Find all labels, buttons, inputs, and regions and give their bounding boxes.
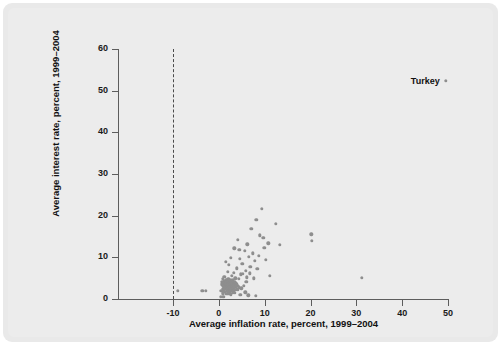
- scatter-point: [235, 266, 238, 269]
- x-axis-title: Average inflation rate, percent, 1999–20…: [118, 318, 449, 329]
- scatter-point: [254, 294, 257, 297]
- x-tick-mark: [265, 300, 266, 306]
- scatter-point: [227, 263, 230, 266]
- scatter-point: [310, 239, 313, 242]
- scatter-point: [248, 271, 251, 274]
- y-tick-mark: [112, 174, 119, 175]
- y-tick-mark: [112, 257, 119, 258]
- y-tick-mark: [112, 299, 119, 300]
- scatter-point: [246, 294, 249, 297]
- scatter-point: [251, 251, 254, 254]
- x-tick-label: 40: [382, 308, 422, 318]
- y-tick-label: 10: [82, 251, 108, 261]
- scatter-point: [255, 218, 258, 221]
- scatter-point: [444, 79, 447, 82]
- scatter-point: [233, 246, 236, 249]
- scatter-point: [241, 272, 244, 275]
- scatter-point: [267, 241, 270, 244]
- scatter-point: [239, 293, 242, 296]
- x-tick-mark: [311, 300, 312, 306]
- zero-inflation-reference-line: [173, 49, 174, 299]
- scatter-point: [310, 233, 313, 236]
- scatter-point: [256, 267, 259, 270]
- x-tick-mark: [402, 300, 403, 306]
- plot-area: Turkey: [173, 49, 448, 299]
- scatter-point: [233, 291, 236, 294]
- scatter-point: [260, 207, 263, 210]
- scatter-point: [238, 257, 241, 260]
- y-tick-mark: [112, 49, 119, 50]
- x-tick-label: 20: [291, 308, 331, 318]
- scatter-point: [176, 289, 179, 292]
- y-tick-label: 60: [82, 43, 108, 53]
- y-tick-label: 40: [82, 126, 108, 136]
- chart-page: Average interest rate, percent, 1999–200…: [0, 0, 501, 345]
- scatter-point: [237, 277, 240, 280]
- scatter-point: [274, 222, 277, 225]
- scatter-point: [247, 255, 250, 258]
- y-tick-label: 50: [82, 85, 108, 95]
- scatter-point: [257, 254, 260, 257]
- scatter-point: [204, 289, 207, 292]
- scatter-point: [229, 256, 232, 259]
- x-tick-mark: [356, 300, 357, 306]
- y-axis-title: Average interest rate, percent, 1999–200…: [50, 29, 61, 219]
- y-tick-mark: [112, 132, 119, 133]
- scatter-point: [241, 262, 244, 265]
- scatter-point: [226, 270, 229, 273]
- scatter-point: [278, 243, 281, 246]
- scatter-point: [264, 258, 267, 261]
- x-axis-spine: [118, 299, 449, 300]
- scatter-point: [238, 248, 241, 251]
- y-tick-mark: [112, 216, 119, 217]
- figure-canvas: Average interest rate, percent, 1999–200…: [8, 8, 493, 337]
- scatter-point: [252, 276, 255, 279]
- scatter-point: [262, 236, 265, 239]
- scatter-point: [250, 227, 253, 230]
- scatter-point: [242, 284, 245, 287]
- y-tick-label: 20: [82, 210, 108, 220]
- x-tick-label: 10: [245, 308, 285, 318]
- scatter-point: [222, 295, 225, 298]
- x-tick-label: -10: [153, 308, 193, 318]
- scatter-point: [236, 238, 239, 241]
- scatter-point: [245, 276, 248, 279]
- scatter-point: [246, 243, 249, 246]
- x-tick-mark: [219, 300, 220, 306]
- x-tick-label: 30: [336, 308, 376, 318]
- x-tick-label: 0: [199, 308, 239, 318]
- x-tick-mark: [173, 300, 174, 306]
- scatter-point: [245, 280, 248, 283]
- scatter-point: [360, 276, 363, 279]
- x-tick-label: 50: [428, 308, 468, 318]
- scatter-point: [249, 265, 252, 268]
- scatter-point: [263, 246, 266, 249]
- y-tick-label: 30: [82, 168, 108, 178]
- x-tick-mark: [448, 300, 449, 306]
- scatter-point: [268, 274, 271, 277]
- y-tick-mark: [112, 91, 119, 92]
- point-annotation-label: Turkey: [411, 76, 440, 86]
- scatter-point: [243, 249, 246, 252]
- scatter-point: [229, 293, 232, 296]
- scatter-point: [253, 259, 256, 262]
- y-tick-label: 0: [82, 293, 108, 303]
